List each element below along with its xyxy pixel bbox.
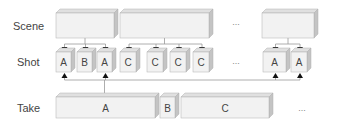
shot-row: ABACCCCAA bbox=[56, 48, 311, 72]
row-label-take: Take bbox=[17, 102, 40, 114]
box-front bbox=[262, 13, 314, 38]
box-label: A bbox=[101, 57, 108, 68]
box-label: C bbox=[197, 57, 204, 68]
shot-box: A bbox=[97, 48, 116, 72]
box-side bbox=[112, 48, 116, 72]
box-label: A bbox=[60, 57, 67, 68]
scene-ellipsis: ... bbox=[232, 17, 240, 27]
scene-box bbox=[262, 9, 318, 38]
scene-box bbox=[120, 9, 213, 38]
take-box: A bbox=[56, 93, 159, 118]
box-side bbox=[186, 48, 190, 72]
box-top bbox=[181, 93, 273, 97]
shot-ellipsis: ... bbox=[232, 56, 240, 66]
box-side bbox=[209, 48, 213, 72]
take-box: C bbox=[181, 93, 273, 118]
box-side bbox=[163, 48, 167, 72]
box-label: B bbox=[164, 103, 171, 114]
box-top bbox=[120, 9, 213, 13]
box-label: A bbox=[271, 57, 278, 68]
take-row: ABC bbox=[56, 93, 273, 118]
box-label: C bbox=[174, 57, 181, 68]
box-side bbox=[307, 48, 311, 72]
shot-box: C bbox=[170, 48, 190, 72]
arrow-up-icon bbox=[297, 73, 303, 78]
box-top bbox=[56, 93, 159, 97]
box-label: B bbox=[81, 57, 88, 68]
box-side bbox=[175, 93, 179, 118]
box-side bbox=[314, 9, 318, 38]
box-top bbox=[263, 48, 290, 52]
shot-box: A bbox=[291, 48, 311, 72]
box-side bbox=[269, 93, 273, 118]
box-label: C bbox=[151, 57, 158, 68]
shot-box: A bbox=[56, 48, 75, 72]
take-box: B bbox=[160, 93, 179, 118]
shot-box: C bbox=[147, 48, 167, 72]
box-label: A bbox=[296, 57, 303, 68]
box-top bbox=[56, 9, 118, 13]
box-side bbox=[155, 93, 159, 118]
take-ellipsis: ... bbox=[298, 103, 306, 113]
box-side bbox=[71, 48, 75, 72]
arrow-up-icon bbox=[273, 73, 279, 78]
arrow-up-icon bbox=[62, 73, 68, 78]
scene-shot-take-diagram: Scene Shot Take ABACCCCAA ABC ... ... ..… bbox=[0, 0, 338, 130]
scene-row bbox=[56, 9, 318, 38]
row-label-scene: Scene bbox=[13, 20, 44, 32]
box-label: A bbox=[102, 103, 109, 114]
shot-box: A bbox=[263, 48, 290, 72]
box-front bbox=[56, 13, 114, 38]
box-side bbox=[114, 9, 118, 38]
box-side bbox=[209, 9, 213, 38]
arrow-up-icon bbox=[103, 73, 109, 78]
row-label-shot: Shot bbox=[17, 56, 40, 68]
scene-box bbox=[56, 9, 118, 38]
box-top bbox=[262, 9, 318, 13]
shot-box: C bbox=[120, 48, 140, 72]
box-label: C bbox=[221, 103, 228, 114]
box-side bbox=[136, 48, 140, 72]
shot-box: C bbox=[193, 48, 213, 72]
box-front bbox=[120, 13, 209, 38]
box-label: C bbox=[124, 57, 131, 68]
box-side bbox=[92, 48, 96, 72]
shot-box: B bbox=[77, 48, 96, 72]
box-side bbox=[286, 48, 290, 72]
